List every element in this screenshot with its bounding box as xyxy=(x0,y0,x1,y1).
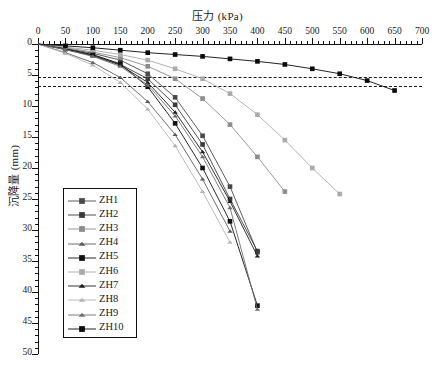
data-point-marker xyxy=(255,254,261,257)
legend: ZH1ZH2ZH3ZH4ZH5ZH6ZH7ZH8ZH9ZH10 xyxy=(63,188,137,338)
data-point-marker xyxy=(255,112,260,117)
legend-item-label: ZH9 xyxy=(97,307,118,318)
y-tick-label: 50 xyxy=(8,347,32,357)
square-marker-icon xyxy=(67,193,97,205)
y-tick-label: 30 xyxy=(8,223,32,233)
data-point-marker xyxy=(365,78,370,83)
legend-item-label: ZH2 xyxy=(97,208,118,219)
data-point-marker xyxy=(200,150,206,153)
data-point-marker xyxy=(200,54,205,59)
legend-item-zh2[interactable]: ZH2 xyxy=(67,206,132,220)
legend-item-zh5[interactable]: ZH5 xyxy=(67,249,132,263)
legend-item-label: ZH6 xyxy=(97,265,118,276)
y-tick-label: 45 xyxy=(8,316,32,326)
data-point-marker xyxy=(91,45,96,50)
data-point-marker xyxy=(172,133,178,136)
square-marker-icon xyxy=(67,264,97,276)
data-point-marker xyxy=(118,48,123,53)
data-point-marker xyxy=(173,66,178,71)
y-tick-label: 25 xyxy=(8,192,32,202)
legend-item-label: ZH3 xyxy=(97,222,118,233)
y-tick-label: 15 xyxy=(8,130,32,140)
data-point-marker xyxy=(173,102,178,107)
data-point-marker xyxy=(228,122,233,127)
data-point-marker xyxy=(392,88,397,93)
square-marker-icon xyxy=(67,321,97,333)
data-point-marker xyxy=(200,142,205,147)
x-axis-title: 压力 (kPa) xyxy=(0,7,435,23)
data-point-marker xyxy=(145,71,150,76)
triangle-marker-icon xyxy=(67,236,97,248)
data-point-marker xyxy=(200,166,205,171)
data-point-marker xyxy=(173,121,178,126)
data-point-marker xyxy=(283,62,288,67)
x-tick-label: 700 xyxy=(405,26,435,36)
triangle-marker-icon xyxy=(67,307,97,319)
data-point-marker xyxy=(173,76,178,81)
data-point-marker xyxy=(200,190,206,193)
series-zh6 xyxy=(38,44,342,196)
square-marker-icon xyxy=(67,207,97,219)
legend-item-zh6[interactable]: ZH6 xyxy=(67,263,132,277)
data-point-marker xyxy=(227,229,233,232)
y-tick-label: 40 xyxy=(8,285,32,295)
legend-item-zh3[interactable]: ZH3 xyxy=(67,220,132,234)
data-point-marker xyxy=(145,76,150,81)
legend-item-label: ZH7 xyxy=(97,279,118,290)
data-point-marker xyxy=(172,144,178,147)
data-point-marker xyxy=(145,50,150,55)
y-tick-label: 5 xyxy=(8,68,32,78)
data-point-marker xyxy=(145,58,150,63)
data-point-marker xyxy=(200,96,205,101)
y-tick-label: 10 xyxy=(8,99,32,109)
data-point-marker xyxy=(337,192,342,197)
square-marker-icon xyxy=(67,250,97,262)
legend-item-zh7[interactable]: ZH7 xyxy=(67,277,132,291)
y-tick-label: 0 xyxy=(8,37,32,47)
legend-item-zh4[interactable]: ZH4 xyxy=(67,235,132,249)
x-tick-major xyxy=(422,38,423,44)
data-point-marker xyxy=(228,91,233,96)
data-point-marker xyxy=(255,59,260,64)
triangle-marker-icon xyxy=(67,278,97,290)
data-point-marker xyxy=(227,241,233,244)
legend-item-zh10[interactable]: ZH10 xyxy=(67,320,132,334)
data-point-marker xyxy=(118,52,123,57)
settlement-pressure-chart: 压力 (kPa) 沉降量 (mm) 0501001502002503003504… xyxy=(0,0,435,373)
data-point-marker xyxy=(228,184,233,189)
legend-item-label: ZH8 xyxy=(97,293,118,304)
legend-item-label: ZH1 xyxy=(97,194,118,205)
data-point-marker xyxy=(173,95,178,100)
data-point-marker xyxy=(200,177,206,180)
data-point-marker xyxy=(283,138,288,143)
data-point-marker xyxy=(145,64,150,69)
data-point-marker xyxy=(200,76,205,81)
legend-item-zh8[interactable]: ZH8 xyxy=(67,291,132,305)
data-point-marker xyxy=(337,71,342,76)
y-tick-major xyxy=(32,354,38,355)
data-point-marker xyxy=(228,57,233,62)
data-point-marker xyxy=(283,189,288,194)
y-tick-label: 20 xyxy=(8,161,32,171)
legend-item-label: ZH4 xyxy=(97,236,118,247)
legend-item-zh1[interactable]: ZH1 xyxy=(67,192,132,206)
y-tick-label: 35 xyxy=(8,254,32,264)
legend-item-zh9[interactable]: ZH9 xyxy=(67,306,132,320)
data-point-marker xyxy=(310,166,315,171)
data-point-marker xyxy=(200,133,205,138)
triangle-marker-icon xyxy=(67,292,97,304)
legend-item-label: ZH10 xyxy=(97,321,124,332)
legend-item-label: ZH5 xyxy=(97,250,118,261)
data-point-marker xyxy=(173,52,178,57)
data-point-marker xyxy=(255,155,260,160)
series-line xyxy=(38,44,340,194)
data-point-marker xyxy=(310,66,315,71)
square-marker-icon xyxy=(67,221,97,233)
data-point-marker xyxy=(63,44,68,49)
data-point-marker xyxy=(228,219,233,224)
data-point-marker xyxy=(255,307,261,310)
